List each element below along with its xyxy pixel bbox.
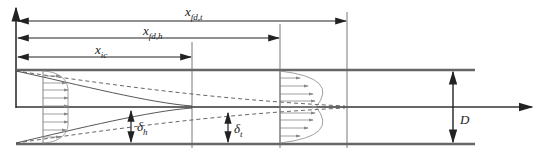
label-delta-t: δt (234, 122, 243, 139)
label-x-fd-t: xfd,t (185, 5, 203, 22)
label-x-fd-h: xfd,h (143, 24, 163, 41)
label-diameter: D (460, 113, 469, 126)
diagram-canvas (0, 0, 544, 155)
developing-flow-diagram: xfd,t xfd,h xic δh δt D (0, 0, 544, 155)
label-x-ic: xic (95, 43, 107, 60)
label-delta-h: δh (137, 120, 148, 137)
